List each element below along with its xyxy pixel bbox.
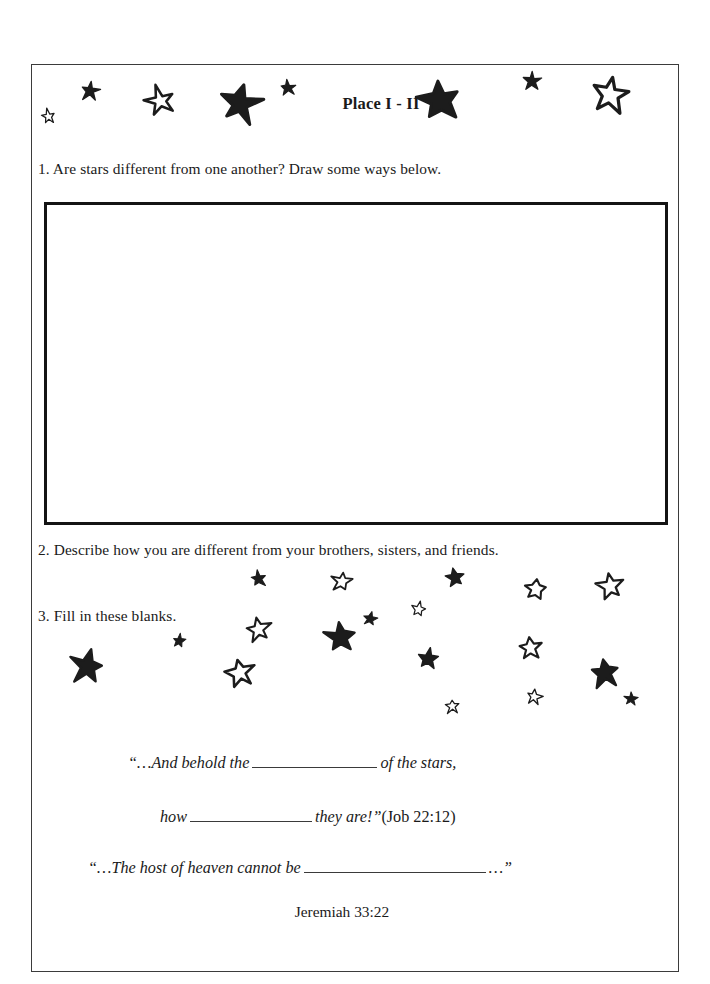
- question-2-text: 2. Describe how you are different from y…: [38, 541, 499, 559]
- scripture-citation-job: (Job 22:12): [381, 808, 455, 826]
- scripture-line-1-before: “…And behold the: [128, 754, 249, 772]
- scripture-line-1-after: of the stars,: [380, 754, 456, 772]
- fill-blank-3[interactable]: [304, 857, 486, 873]
- scripture-reference-jeremiah: Jeremiah 33:22: [0, 903, 710, 921]
- page-title: Place I - II: [31, 94, 679, 114]
- header-band: Place I - II: [31, 66, 679, 144]
- question-3-text: 3. Fill in these blanks.: [38, 607, 176, 625]
- drawing-answer-box[interactable]: [44, 202, 668, 525]
- scripture-line-3-before: “…The host of heaven cannot be: [88, 859, 301, 877]
- fill-blank-1[interactable]: [252, 752, 377, 768]
- scripture-line-1: “…And behold theof the stars,: [128, 752, 456, 773]
- scripture-line-3-after: …”: [489, 859, 512, 877]
- fill-blank-2[interactable]: [190, 806, 312, 822]
- scripture-line-2-after: they are!”: [315, 808, 381, 826]
- worksheet-page: Place I - II 1. Are stars different from…: [0, 0, 710, 984]
- question-1-text: 1. Are stars different from one another?…: [38, 160, 441, 178]
- scripture-line-2-before: how: [160, 808, 187, 826]
- scripture-line-3: “…The host of heaven cannot be…”: [88, 857, 512, 878]
- scripture-line-2: howthey are!”(Job 22:12): [160, 806, 456, 827]
